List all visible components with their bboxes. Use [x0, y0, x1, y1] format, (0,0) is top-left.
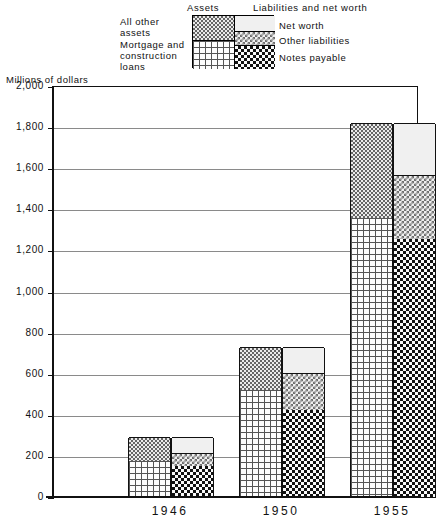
- bar-segment-net-worth: [172, 437, 213, 452]
- y-axis-tick-label: 200: [0, 450, 44, 461]
- legend-swatch-notes-payable: [234, 45, 275, 69]
- legend-swatch-mortgage-loans: [193, 40, 234, 69]
- legend-swatch-net-worth: [234, 16, 275, 31]
- bar-1950-assets: [239, 348, 282, 498]
- x-axis-line: [46, 496, 418, 498]
- y-axis-tick-label: 1,600: [0, 162, 44, 173]
- legend-swatch-grid: [192, 15, 274, 68]
- bar-segment-all-other-assets: [129, 437, 170, 461]
- y-axis-tick-label: 600: [0, 368, 44, 379]
- x-axis-tick-label: 1946: [115, 504, 225, 518]
- bar-1950-liabilities: [282, 348, 325, 498]
- x-axis-tick-label: 1950: [226, 504, 336, 518]
- bar-segment-all-other-assets: [351, 123, 392, 218]
- bar-segment-mortgage-and-construction-loans: [240, 390, 281, 497]
- legend-swatch-all-other-assets: [193, 16, 234, 40]
- y-axis-tick-label: 0: [0, 491, 44, 502]
- bar-segment-notes-payable: [394, 239, 435, 497]
- legend-heading-assets: Assets: [187, 2, 219, 13]
- bar-1955-assets: [350, 124, 393, 498]
- y-axis-tick-label: 1,800: [0, 121, 44, 132]
- bar-segment-all-other-assets: [240, 347, 281, 390]
- bar-segment-other-liabilities: [172, 453, 213, 466]
- y-axis-line: [52, 86, 54, 498]
- y-axis-tick-label: 1,400: [0, 203, 44, 214]
- y-axis-tick-label: 1,000: [0, 286, 44, 297]
- y-axis-tick-label: 2,000: [0, 80, 44, 91]
- y-axis-tick-label: 800: [0, 327, 44, 338]
- bar-segment-net-worth: [394, 123, 435, 175]
- y-axis-tick: [48, 498, 54, 499]
- bar-segment-mortgage-and-construction-loans: [129, 461, 170, 497]
- legend-label-net-worth: Net worth: [279, 20, 324, 31]
- legend-swatch-other-liabilities: [234, 31, 275, 45]
- bar-1946-liabilities: [171, 438, 214, 498]
- bar-segment-net-worth: [283, 347, 324, 373]
- x-axis-tick-label: 1955: [337, 504, 440, 518]
- y-axis-tick-label: 400: [0, 409, 44, 420]
- bar-segment-other-liabilities: [283, 373, 324, 410]
- chart-legend: Assets Liabilities and net worth All oth…: [0, 0, 440, 72]
- plot-frame: [53, 86, 418, 497]
- y-axis-tick-label: 1,200: [0, 244, 44, 255]
- legend-label-notes-payable: Notes payable: [279, 52, 346, 63]
- bar-segment-other-liabilities: [394, 175, 435, 239]
- legend-label-all-other-assets: All otherassets: [120, 16, 159, 38]
- bar-segment-notes-payable: [283, 410, 324, 497]
- bar-segment-notes-payable: [172, 466, 213, 497]
- legend-label-other-liabilities: Other liabilities: [279, 35, 350, 46]
- chart-plot-area: Millions of dollars 2,0001,8001,6001,400…: [0, 72, 440, 520]
- bar-1955-liabilities: [393, 124, 436, 498]
- legend-heading-liabilities: Liabilities and net worth: [253, 2, 367, 13]
- legend-label-mortgage-loans: Mortgage andconstructionloans: [120, 39, 185, 72]
- bar-1946-assets: [128, 438, 171, 498]
- bar-segment-mortgage-and-construction-loans: [351, 218, 392, 497]
